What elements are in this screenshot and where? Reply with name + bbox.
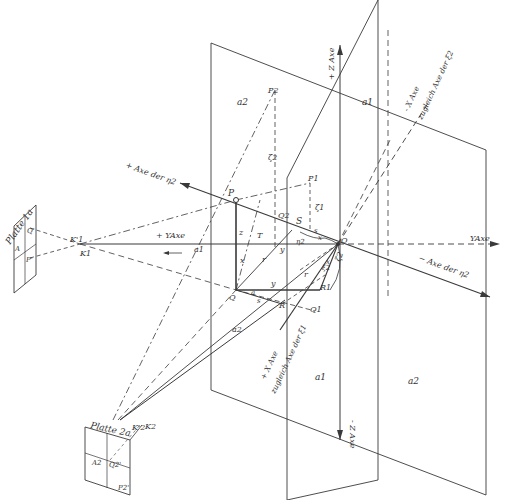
label-plate2-q: Q2' bbox=[109, 461, 121, 469]
label-xi2: ξ2 bbox=[322, 264, 331, 272]
label-zeta2-upper: ζ2 bbox=[268, 153, 277, 162]
label-plate2-p: P2' bbox=[117, 484, 129, 492]
eta-axis bbox=[180, 183, 490, 297]
label-seg-y-lower: y bbox=[270, 279, 276, 288]
label-plus-eta-axis: + Axe der η2 bbox=[124, 160, 177, 187]
label-seg-r-lower: r bbox=[304, 270, 309, 279]
label-k1prime: K'1 bbox=[69, 235, 83, 244]
label-plane-a2-top: a2 bbox=[237, 97, 248, 107]
ray-k1-q bbox=[80, 244, 236, 290]
label-a2-line: a2 bbox=[232, 325, 242, 334]
point-p bbox=[234, 198, 239, 203]
ray-k1-p1 bbox=[236, 183, 310, 200]
label-seg-x: x bbox=[240, 256, 245, 265]
label-minus-x-sub: zugleich Axe der ξ2 bbox=[415, 49, 455, 122]
label-q2: Q2 bbox=[278, 211, 290, 220]
label-p1: P1 bbox=[307, 174, 318, 183]
eta-arrow-right bbox=[480, 291, 490, 297]
label-o: O bbox=[341, 236, 348, 245]
label-plane-a1-bottom: a1 bbox=[315, 372, 326, 382]
label-seg-r-upper: r bbox=[262, 255, 267, 264]
label-r: R bbox=[278, 301, 285, 310]
label-zeta1: ζ1 bbox=[315, 203, 324, 212]
plate-2a-title: Platte 2a bbox=[89, 420, 132, 438]
ray-k1-plate2 bbox=[30, 244, 80, 258]
label-plus-z-axe: + Z Axe bbox=[327, 47, 336, 80]
label-plane-a2-bottom: a2 bbox=[408, 376, 419, 386]
label-eta2: η2 bbox=[296, 238, 305, 246]
label-minus-eta-axis: − Axe der η2 bbox=[417, 253, 470, 280]
arrow-a1-head bbox=[163, 251, 169, 255]
label-minus-z-axe: - Z Axe bbox=[348, 420, 357, 449]
label-k2: K2 bbox=[144, 422, 156, 431]
label-r1: R1 bbox=[319, 283, 331, 292]
label-s: S bbox=[296, 216, 302, 226]
segment-q-q1 bbox=[236, 290, 315, 311]
stereo-geometry-diagram: Platte 1a Q' A P' Platte 2a A2 Q2' P2' K… bbox=[0, 0, 510, 500]
ray-k2-p2 bbox=[113, 90, 275, 420]
y-axis-arrow bbox=[490, 241, 500, 247]
label-q: Q bbox=[229, 293, 236, 302]
label-plate1-q: Q' bbox=[27, 227, 35, 235]
label-plus-y-axe: + YAxe bbox=[156, 231, 185, 240]
label-seg-y-upper: y bbox=[279, 245, 285, 254]
label-seg-s-lower: s bbox=[257, 297, 261, 305]
line-k2-r bbox=[120, 300, 285, 420]
label-plate2-a: A2 bbox=[91, 459, 102, 467]
label-t: T bbox=[257, 231, 263, 240]
right-dashed-diag bbox=[338, 140, 390, 244]
label-seg-z: z bbox=[238, 228, 244, 237]
label-minus-x-axe: - X Axe bbox=[402, 84, 422, 113]
label-q1: Q1 bbox=[310, 305, 322, 314]
label-a1-axis: a1 bbox=[194, 245, 204, 254]
ray-k2-q bbox=[118, 290, 236, 420]
label-plate1-a: A bbox=[14, 245, 20, 253]
x-axis-upper bbox=[338, 100, 430, 244]
label-plane-a1-top: a1 bbox=[362, 97, 373, 107]
label-k1: K1 bbox=[79, 249, 91, 258]
segment-o-lower bbox=[300, 244, 338, 270]
label-p2: P2 bbox=[267, 86, 278, 95]
label-seg-a: a bbox=[251, 289, 255, 297]
label-p: P bbox=[227, 188, 235, 198]
label-seg-x-upper-s: x bbox=[318, 234, 322, 242]
label-y-axe-right: YAxe bbox=[470, 234, 490, 243]
label-plate1-p: P' bbox=[25, 256, 33, 264]
point-o bbox=[336, 242, 340, 246]
label-k2prime: K'2 bbox=[131, 423, 145, 432]
z-axis-arrow-up bbox=[337, 45, 343, 55]
eta-arrow-left bbox=[180, 183, 190, 189]
label-zeta2-lower: ζ2 bbox=[333, 251, 345, 263]
